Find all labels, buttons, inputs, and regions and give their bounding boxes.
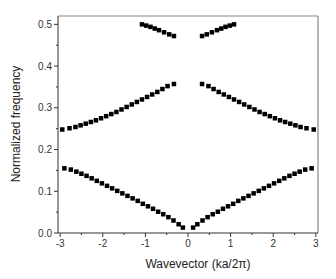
data-point-marker <box>125 194 129 199</box>
data-point-marker <box>129 102 134 107</box>
data-point-marker <box>231 202 236 207</box>
data-point-marker <box>210 212 215 217</box>
data-point-marker <box>153 26 158 31</box>
data-point-marker <box>219 26 224 31</box>
data-point-marker <box>62 166 67 171</box>
x-axis-label: Wavevector (ka/2π) <box>145 257 250 271</box>
x-axis-ticks: -3-2-10123 <box>56 233 319 249</box>
data-point-marker <box>241 196 246 201</box>
data-point-marker <box>206 84 211 89</box>
data-point-marker <box>262 186 267 191</box>
data-point-marker <box>74 169 79 174</box>
data-point-marker <box>155 90 160 95</box>
data-point-marker <box>309 166 314 171</box>
data-point-marker <box>104 114 109 119</box>
data-point-marker <box>140 22 145 27</box>
data-point-marker <box>283 120 288 125</box>
data-point-marker <box>172 82 177 87</box>
data-point-marker <box>156 209 161 214</box>
data-point-marker <box>119 107 124 112</box>
band-3-left <box>140 22 176 38</box>
data-point-marker <box>215 28 220 33</box>
band-1-left <box>62 166 185 230</box>
data-point-marker <box>60 127 65 132</box>
y-tick-label: 0.5 <box>38 19 52 30</box>
data-point-marker <box>69 167 74 172</box>
data-point-marker <box>292 171 297 176</box>
data-point-marker <box>262 112 267 117</box>
data-point-marker <box>210 30 215 35</box>
data-point-marker <box>297 169 302 174</box>
data-point-marker <box>237 100 242 105</box>
data-point-marker <box>227 95 232 100</box>
data-point-marker <box>78 123 83 128</box>
data-point-marker <box>277 179 282 184</box>
x-tick-label: -1 <box>141 238 150 249</box>
data-point-marker <box>161 212 166 217</box>
data-points <box>60 22 316 230</box>
data-point-marker <box>135 199 140 204</box>
data-point-marker <box>166 215 171 220</box>
data-point-marker <box>228 23 233 28</box>
data-point-marker <box>247 105 252 110</box>
data-point-marker <box>145 95 150 100</box>
data-point-marker <box>236 199 241 204</box>
x-tick-label: 1 <box>228 238 234 249</box>
data-point-marker <box>160 87 165 92</box>
data-point-marker <box>167 32 172 37</box>
data-point-marker <box>272 181 277 186</box>
data-point-marker <box>73 125 78 130</box>
data-point-marker <box>257 189 262 194</box>
data-point-marker <box>105 184 110 189</box>
data-point-marker <box>165 84 170 89</box>
data-point-marker <box>191 225 196 230</box>
data-point-marker <box>181 225 186 230</box>
band-structure-chart: -3-2-10123 0.00.10.20.30.40.5 Wavevector… <box>0 0 336 279</box>
data-point-marker <box>205 215 210 220</box>
data-point-marker <box>176 222 181 227</box>
data-point-marker <box>100 181 105 186</box>
data-point-marker <box>288 121 293 126</box>
data-point-marker <box>84 174 89 179</box>
data-point-marker <box>200 218 205 223</box>
data-point-marker <box>140 97 145 102</box>
plot-frame <box>58 16 318 233</box>
data-point-marker <box>148 25 153 30</box>
data-point-marker <box>83 121 88 126</box>
y-tick-label: 0.4 <box>38 61 52 72</box>
data-point-marker <box>246 194 251 199</box>
band-1-right <box>191 166 314 230</box>
data-point-marker <box>200 34 205 39</box>
data-point-marker <box>232 22 237 27</box>
y-tick-label: 0.3 <box>38 102 52 113</box>
data-point-marker <box>226 204 231 209</box>
data-point-marker <box>287 174 292 179</box>
band-2-right <box>200 82 316 132</box>
data-point-marker <box>151 207 156 212</box>
data-point-marker <box>120 191 125 196</box>
data-point-marker <box>293 123 298 128</box>
data-point-marker <box>282 176 287 181</box>
x-tick-label: 2 <box>270 238 276 249</box>
data-point-marker <box>268 114 273 119</box>
data-point-marker <box>216 209 221 214</box>
data-point-marker <box>157 28 162 33</box>
data-point-marker <box>304 126 309 131</box>
data-point-marker <box>223 25 228 30</box>
data-point-marker <box>109 112 114 117</box>
data-point-marker <box>195 222 200 227</box>
data-point-marker <box>232 97 237 102</box>
data-point-marker <box>114 110 119 115</box>
data-point-marker <box>94 118 99 123</box>
y-axis-label: Normalized frequency <box>9 66 23 183</box>
x-tick-label: -2 <box>98 238 107 249</box>
x-tick-label: 0 <box>185 238 191 249</box>
data-point-marker <box>273 116 278 121</box>
data-point-marker <box>205 32 210 37</box>
data-point-marker <box>150 92 155 97</box>
y-tick-label: 0.0 <box>38 228 52 239</box>
data-point-marker <box>298 125 303 130</box>
data-point-marker <box>172 34 177 39</box>
data-point-marker <box>171 218 176 223</box>
data-point-marker <box>146 204 151 209</box>
